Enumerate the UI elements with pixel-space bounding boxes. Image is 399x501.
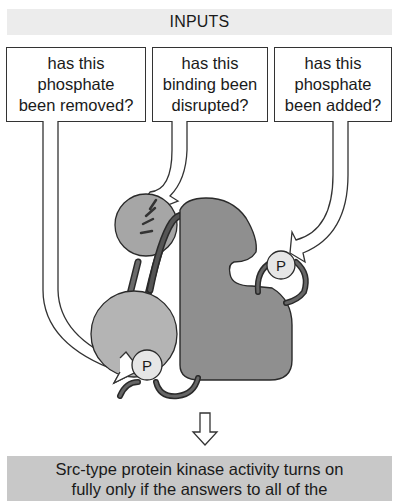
result-line: fully only if the answers to all of the <box>7 479 392 499</box>
down-arrow-icon <box>193 413 217 445</box>
lower-tail-loop <box>120 378 198 396</box>
kinase-domain <box>180 198 292 380</box>
phosphate-label: P <box>276 257 286 274</box>
phosphate-lower: P <box>132 350 162 380</box>
arrow-phosphate-added <box>290 121 348 262</box>
result-box: Src-type protein kinase activity turns o… <box>7 456 392 501</box>
phosphate-label: P <box>142 357 152 374</box>
result-line: Src-type protein kinase activity turns o… <box>7 459 392 479</box>
phosphate-upper: P <box>267 251 295 279</box>
kinase-diagram: P P <box>0 0 399 501</box>
